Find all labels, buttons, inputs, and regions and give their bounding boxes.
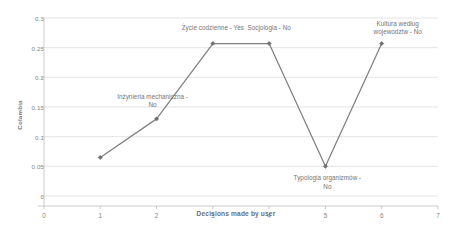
line-chart: Colambia 00.050.10.150.20.250.3 01234567… [0,0,454,230]
data-point-annotation: Inżynieria mechaniczna - No [110,93,196,109]
data-point-annotation: Typologia organizmów - No [286,174,368,190]
annotation-layer: Inżynieria mechaniczna - NoŻycie codzien… [0,0,454,230]
data-point-annotation: Socjologia - No [224,24,314,32]
data-point-annotation: Kultura według wojewodztw - No [363,20,433,36]
